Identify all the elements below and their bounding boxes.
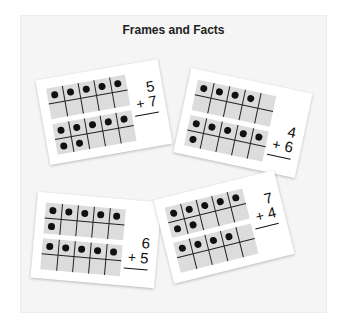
counter-dot [81, 210, 89, 218]
ten-frame-bottom [40, 238, 122, 276]
counter-dot [192, 120, 200, 128]
addition-fact: 5 + 7 [123, 78, 159, 118]
counter-dot [66, 88, 74, 96]
counter-dot [78, 245, 86, 253]
counter-dot [46, 243, 54, 251]
counter-dot [98, 82, 106, 90]
fact-card-3: 6 + 5 [30, 192, 161, 288]
sum-line [135, 111, 159, 116]
fact-bottom-number: 6 [283, 137, 295, 155]
counter-dot [216, 197, 224, 205]
counter-dot [65, 208, 73, 216]
addition-fact: 4 + 6 [261, 119, 298, 159]
counter-dot [189, 135, 197, 143]
addition-fact: 6 + 5 [118, 233, 151, 270]
counter-dot [225, 232, 233, 240]
counter-dot [110, 248, 118, 256]
fact-bottom-number: 5 [140, 249, 150, 267]
counter-dot [51, 91, 59, 99]
frame-row-divider [45, 217, 125, 225]
fact-operator: + [127, 249, 137, 266]
fact-operator: + [271, 136, 282, 153]
counter-dot [232, 194, 240, 202]
counter-dot [94, 247, 102, 255]
counter-dot [239, 130, 247, 138]
counter-dot [60, 142, 68, 150]
fact-bottom-number: 7 [147, 92, 158, 110]
counter-dot [104, 118, 112, 126]
counter-dot [208, 123, 216, 131]
counter-dot [97, 211, 105, 219]
counter-dot [189, 221, 197, 229]
fact-operator: + [254, 207, 266, 225]
ten-frame-bottom [52, 110, 136, 154]
fact-bottom-number: 4 [266, 203, 278, 222]
counter-dot [231, 91, 239, 99]
worksheet-title: Frames and Facts [21, 23, 326, 37]
counter-dot [173, 225, 181, 233]
counter-dot [200, 201, 208, 209]
counter-dot [185, 205, 193, 213]
counter-dot [62, 244, 70, 252]
sum-line [124, 268, 148, 271]
fact-operator: + [135, 95, 146, 112]
counter-dot [49, 207, 57, 215]
counter-dot [57, 126, 65, 134]
counter-dot [82, 85, 90, 93]
counter-dot [73, 123, 81, 131]
counter-dot [200, 84, 208, 92]
counter-dot [178, 244, 186, 252]
counter-dot [114, 80, 122, 88]
counter-dot [48, 223, 56, 231]
counter-dot [120, 115, 128, 123]
frame-row-divider [42, 253, 122, 261]
counter-dot [223, 126, 231, 134]
counter-dot [88, 121, 96, 129]
counter-dot [113, 212, 121, 220]
counter-dot [169, 209, 177, 217]
ten-frame-top [43, 203, 125, 241]
counter-dot [194, 240, 202, 248]
counter-dot [247, 94, 255, 102]
counter-dot [255, 133, 263, 141]
counter-dot [215, 88, 223, 96]
counter-dot [75, 139, 83, 147]
counter-dot [209, 236, 217, 244]
